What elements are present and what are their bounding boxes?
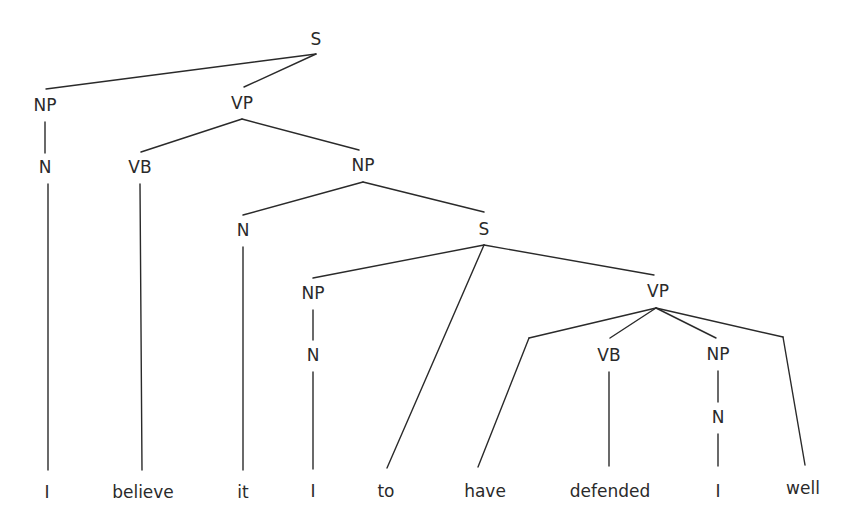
tree-leaf-word: believe [112, 482, 174, 502]
tree-node-vp: VP [647, 281, 669, 301]
tree-node-n: N [39, 157, 52, 177]
tree-edge [478, 338, 529, 467]
tree-node-np: NP [34, 95, 57, 115]
tree-node-np: NP [707, 344, 730, 364]
tree-leaf-word: have [464, 481, 506, 501]
parse-tree-diagram: SNPVPNVBNPNSNPVPNVBNPN IbelieveitItohave… [0, 0, 850, 516]
tree-leaf-word: I [715, 481, 720, 501]
tree-edge [610, 308, 656, 338]
tree-edge [783, 337, 805, 465]
tree-edge [140, 184, 142, 470]
tree-leaves: IbelieveitItohavedefendedIwell [44, 478, 819, 502]
tree-node-vb: VB [128, 157, 151, 177]
tree-node-np: NP [352, 155, 375, 175]
tree-edge [363, 182, 484, 212]
tree-edges [45, 54, 805, 470]
tree-edge [243, 182, 363, 215]
tree-edge [46, 54, 316, 89]
tree-edge [529, 308, 656, 338]
tree-node-s: S [311, 29, 322, 49]
tree-edge [656, 308, 716, 338]
tree-node-n: N [712, 407, 725, 427]
tree-node-np: NP [302, 283, 325, 303]
tree-edge [313, 245, 484, 278]
tree-edge [484, 245, 654, 275]
tree-leaf-word: well [786, 478, 820, 498]
tree-leaf-word: I [310, 481, 315, 501]
tree-node-n: N [307, 345, 320, 365]
tree-edge [656, 308, 783, 337]
tree-node-vb: VB [597, 345, 620, 365]
tree-edge [141, 119, 242, 152]
tree-node-s: S [479, 219, 490, 239]
tree-leaf-word: defended [570, 481, 651, 501]
tree-edge [387, 245, 484, 468]
tree-leaf-word: it [237, 482, 249, 502]
tree-leaf-word: to [377, 481, 394, 501]
tree-node-vp: VP [231, 93, 253, 113]
tree-leaf-word: I [44, 482, 49, 502]
tree-edge [242, 119, 359, 150]
tree-nodes: SNPVPNVBNPNSNPVPNVBNPN [34, 29, 730, 427]
tree-node-n: N [237, 220, 250, 240]
